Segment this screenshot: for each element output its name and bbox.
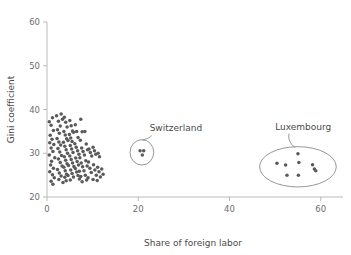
data-point: [52, 143, 56, 147]
data-point: [74, 123, 78, 127]
data-point: [85, 164, 89, 168]
data-point: [93, 149, 97, 153]
data-point: [66, 139, 70, 143]
data-point: [49, 146, 53, 150]
data-point: [79, 117, 83, 121]
data-point: [62, 166, 66, 170]
y-axis-title-text: Gini coefficient: [6, 75, 16, 143]
data-point: [48, 141, 52, 145]
data-point: [74, 145, 78, 149]
annotation-leader-1: [289, 134, 295, 148]
data-point: [101, 173, 105, 177]
data-point: [77, 163, 81, 167]
data-point: [138, 149, 142, 153]
data-point: [84, 173, 88, 177]
data-point: [86, 176, 90, 180]
x-axis-title-text: Share of foreign labor: [144, 238, 242, 248]
data-point: [64, 169, 68, 173]
data-point: [275, 162, 279, 166]
data-point: [88, 166, 92, 170]
data-point: [89, 151, 93, 155]
data-point: [51, 173, 55, 177]
y-tick-text-30: 30: [29, 148, 40, 158]
data-point: [74, 156, 78, 160]
x-tick-text-40: 40: [224, 204, 235, 214]
data-point: [284, 163, 288, 167]
data-point: [311, 163, 315, 167]
data-point: [141, 153, 145, 157]
data-point: [51, 150, 55, 154]
data-point: [58, 131, 62, 135]
data-point: [100, 167, 104, 171]
data-point: [73, 142, 77, 146]
data-point: [71, 151, 75, 155]
annotation-text-1: Luxembourg: [275, 122, 331, 132]
annotation-leader-0: [142, 135, 151, 140]
annotation-text-0: Switzerland: [150, 123, 203, 133]
data-point: [55, 114, 59, 118]
data-point: [78, 169, 82, 173]
data-point: [58, 171, 62, 175]
data-point: [62, 141, 66, 145]
data-point: [48, 120, 52, 124]
series-0: [48, 112, 105, 186]
data-point: [55, 137, 59, 141]
data-point: [69, 144, 73, 148]
scatter-plot-figure: 20304050600204060Share of foreign laborG…: [0, 0, 351, 255]
data-point: [63, 176, 67, 180]
data-point: [75, 160, 79, 164]
data-point: [91, 145, 95, 149]
data-point: [49, 124, 53, 128]
data-point: [79, 138, 83, 142]
data-point: [92, 163, 96, 167]
data-point: [69, 136, 73, 140]
data-point: [50, 159, 54, 163]
data-point: [63, 145, 67, 149]
data-point: [83, 153, 87, 157]
data-point: [58, 124, 62, 128]
axis-lines: [47, 22, 343, 197]
data-point: [59, 174, 63, 178]
data-point: [52, 129, 56, 133]
data-point: [64, 179, 68, 183]
data-point: [64, 148, 68, 152]
data-point: [75, 130, 79, 134]
data-point: [80, 146, 84, 150]
data-point: [82, 169, 86, 173]
data-point: [87, 147, 91, 151]
data-point: [76, 149, 80, 153]
data-point: [87, 160, 91, 164]
data-point: [96, 166, 100, 170]
data-point: [69, 178, 73, 182]
data-point: [52, 166, 56, 170]
data-point: [91, 178, 95, 182]
data-point: [84, 142, 88, 146]
data-point: [64, 159, 68, 163]
data-point: [58, 161, 62, 165]
data-point: [56, 128, 60, 132]
data-point: [57, 120, 61, 124]
data-point: [69, 168, 73, 172]
data-point: [67, 164, 71, 168]
data-point: [64, 133, 68, 137]
highlight-ring-0: [130, 140, 154, 165]
chart-canvas: 20304050600204060Share of foreign laborG…: [0, 0, 351, 255]
data-point: [81, 165, 85, 169]
data-point: [59, 143, 63, 147]
data-point: [297, 173, 301, 177]
annotations-group: SwitzerlandLuxembourg: [130, 122, 336, 187]
data-point: [70, 172, 74, 176]
data-point: [66, 174, 70, 178]
data-point: [68, 119, 72, 123]
data-point: [57, 157, 61, 161]
y-tick-text-40: 40: [29, 105, 40, 115]
data-point: [57, 178, 61, 182]
data-point: [48, 170, 52, 174]
data-point: [76, 136, 80, 140]
data-point: [96, 152, 100, 156]
x-tick-text-20: 20: [133, 204, 144, 214]
data-point: [62, 130, 66, 134]
data-point: [81, 150, 85, 154]
data-point: [296, 152, 300, 156]
data-point: [51, 116, 55, 120]
